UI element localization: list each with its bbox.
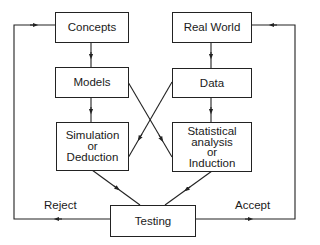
testing-label: Testing: [135, 216, 171, 227]
simulation-node: Simulation or Deduction: [56, 122, 129, 171]
reject-label: Reject: [44, 199, 77, 211]
accept-label: Accept: [235, 199, 270, 211]
testing-node: Testing: [110, 205, 196, 237]
statistical-line-4: Induction: [189, 158, 236, 169]
statistical-line-3: or: [207, 147, 217, 158]
statistical-line-1: Statistical: [187, 126, 236, 137]
real-world-node: Real World: [172, 12, 252, 43]
models-label: Models: [73, 77, 110, 88]
data-label: Data: [200, 78, 224, 89]
models-node: Models: [55, 67, 129, 98]
data-node: Data: [172, 68, 252, 98]
concepts-node: Concepts: [55, 12, 129, 43]
simulation-line-3: Deduction: [67, 152, 119, 163]
real-world-label: Real World: [184, 22, 241, 33]
concepts-label: Concepts: [68, 22, 117, 33]
statistical-node: Statistical analysis or Induction: [172, 122, 252, 172]
